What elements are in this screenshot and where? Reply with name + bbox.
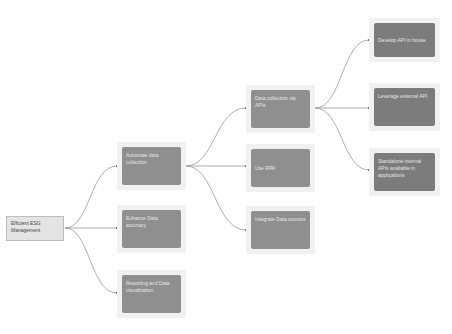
node-card[interactable]: Leverage external API: [374, 88, 435, 126]
node-integrate-data-sources[interactable]: Integrate Data sources: [246, 206, 315, 254]
node-label: Leverage external API: [378, 93, 427, 99]
node-card[interactable]: Use RPA: [251, 149, 310, 187]
edge-root-to-reporting: [65, 228, 117, 293]
node-card[interactable]: Develop API in house: [374, 23, 435, 57]
node-leverage-external-api[interactable]: Leverage external API: [369, 83, 440, 131]
node-label: Reporting and Data visualization: [126, 280, 169, 293]
node-card[interactable]: Enhance Data accuracy: [122, 210, 181, 248]
node-standalone-internal-apis[interactable]: Standalone internal APIs available in ap…: [369, 148, 440, 196]
node-label: Data collection via APIs: [255, 95, 296, 108]
node-card[interactable]: Reporting and Data visualization: [122, 275, 181, 313]
node-develop-api-in-house[interactable]: Develop API in house: [369, 18, 440, 62]
node-card[interactable]: Automate data collection: [122, 147, 181, 185]
edge-root-to-automate: [65, 166, 117, 228]
edge-apis-to-develop: [315, 40, 369, 108]
node-card[interactable]: Integrate Data sources: [251, 211, 310, 249]
node-reporting-data-visualization[interactable]: Reporting and Data visualization: [117, 270, 186, 318]
node-use-rpa[interactable]: Use RPA: [246, 144, 315, 192]
node-label: Develop API in house: [378, 37, 426, 44]
edge-apis-to-standalone: [315, 108, 369, 170]
node-card[interactable]: Standalone internal APIs available in ap…: [374, 153, 435, 191]
node-card[interactable]: Data collection via APIs: [251, 90, 310, 128]
node-label: Integrate Data sources: [255, 216, 306, 222]
edge-automate-to-apis: [186, 108, 246, 166]
root-node-label: Efficient ESG Management: [11, 220, 41, 233]
node-label: Automate data collection: [126, 152, 159, 165]
edge-automate-to-integrate: [186, 166, 246, 230]
node-label: Standalone internal APIs available in ap…: [378, 158, 421, 178]
node-label: Use RPA: [255, 165, 275, 172]
node-data-collection-via-apis[interactable]: Data collection via APIs: [246, 85, 315, 133]
root-node[interactable]: Efficient ESG Management: [6, 216, 64, 241]
node-label: Enhance Data accuracy: [126, 215, 158, 228]
node-enhance-data-accuracy[interactable]: Enhance Data accuracy: [117, 205, 186, 253]
node-automate-data-collection[interactable]: Automate data collection: [117, 142, 186, 190]
